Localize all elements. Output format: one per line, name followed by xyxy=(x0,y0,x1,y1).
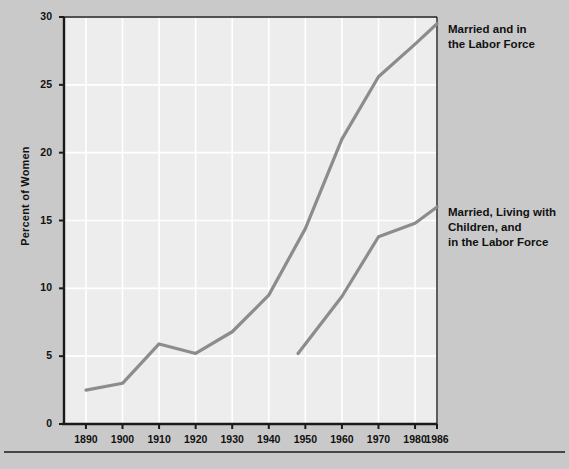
x-tick-label: 1986 xyxy=(421,433,453,445)
y-tick-label: 10 xyxy=(26,281,52,293)
series-label-line-1: Married, Living with xyxy=(448,206,556,218)
x-tick-label: 1960 xyxy=(326,433,358,445)
y-tick-label: 20 xyxy=(26,146,52,158)
x-tick-label: 1930 xyxy=(216,433,248,445)
series-label-line-2: Children, and xyxy=(448,221,521,233)
series-label-line-3: in the Labor Force xyxy=(448,236,548,248)
x-tick-label: 1890 xyxy=(70,433,102,445)
x-tick-label: 1970 xyxy=(362,433,394,445)
x-tick-label: 1940 xyxy=(253,433,285,445)
series-label-married-children-labor-force: Married, Living withChildren, andin the … xyxy=(448,205,556,251)
series-label-line-2: the Labor Force xyxy=(448,38,535,50)
x-tick-label: 1910 xyxy=(143,433,175,445)
y-tick-label: 5 xyxy=(26,349,52,361)
x-tick-label: 1900 xyxy=(107,433,139,445)
y-tick-label: 25 xyxy=(26,78,52,90)
y-tick-label: 15 xyxy=(26,214,52,226)
series-label-line-1: Married and in xyxy=(448,23,527,35)
chart-figure: Percent of Women 051015202530 1890190019… xyxy=(0,0,569,469)
series-label-married-labor-force: Married and inthe Labor Force xyxy=(448,22,535,52)
x-tick-label: 1920 xyxy=(180,433,212,445)
x-tick-label: 1950 xyxy=(289,433,321,445)
y-tick-label: 30 xyxy=(26,10,52,22)
y-tick-label: 0 xyxy=(26,417,52,429)
